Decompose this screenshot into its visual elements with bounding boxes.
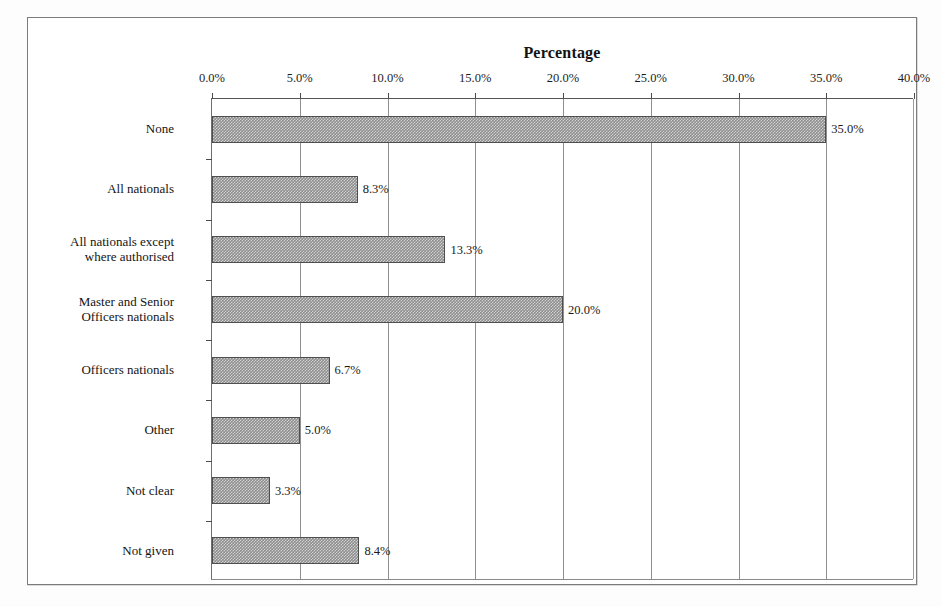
category-label-master-and-senior: Master and Senior Officers nationals <box>28 294 174 324</box>
bar-all-nationals-except-where-authorised[interactable] <box>212 236 445 263</box>
x-axis-tick <box>212 93 213 99</box>
bar-value-label: 6.7% <box>335 363 361 378</box>
x-axis-tick <box>300 93 301 99</box>
gridline-20-0% <box>563 99 564 579</box>
x-axis-tick-label: 10.0% <box>371 71 403 86</box>
bar-master-and-senior-officers-nationals[interactable] <box>212 296 563 323</box>
y-axis-tick <box>206 521 212 522</box>
gridline-30-0% <box>739 99 740 579</box>
bar-not-given[interactable] <box>212 537 359 564</box>
bar-none[interactable] <box>212 116 826 143</box>
gridline-15-0% <box>475 99 476 579</box>
bar-all-nationals[interactable] <box>212 176 358 203</box>
x-axis-tick <box>475 93 476 99</box>
bar-value-label: 8.4% <box>364 543 390 558</box>
gridline-10-0% <box>388 99 389 579</box>
y-axis-tick <box>206 340 212 341</box>
y-axis-tick <box>206 400 212 401</box>
x-axis-tick-label: 5.0% <box>287 71 313 86</box>
x-axis-tick <box>826 93 827 99</box>
x-axis-tick <box>563 93 564 99</box>
x-axis-tick-label: 15.0% <box>459 71 491 86</box>
category-label-all-nationals-except: All nationals except where authorised <box>28 234 174 264</box>
category-label-all-nationals: All nationals <box>28 181 174 196</box>
bar-value-label: 13.3% <box>450 242 482 257</box>
x-axis-tick <box>739 93 740 99</box>
chart-title: Percentage <box>211 44 913 62</box>
y-axis-tick <box>206 461 212 462</box>
category-label-not-given: Not given <box>28 542 174 557</box>
y-axis-tick <box>206 280 212 281</box>
x-axis-tick-label: 25.0% <box>635 71 667 86</box>
bar-value-label: 5.0% <box>305 423 331 438</box>
x-axis-tick-label: 20.0% <box>547 71 579 86</box>
x-axis-tick-label: 35.0% <box>810 71 842 86</box>
plot-area: 0.0%5.0%10.0%15.0%20.0%25.0%30.0%35.0%40… <box>211 98 913 580</box>
category-label-other: Other <box>28 422 174 437</box>
chart-frame: Percentage 0.0%5.0%10.0%15.0%20.0%25.0%3… <box>27 17 917 585</box>
plot-inner: 0.0%5.0%10.0%15.0%20.0%25.0%30.0%35.0%40… <box>212 99 913 579</box>
y-axis-tick <box>206 159 212 160</box>
gridline-40-0% <box>913 99 914 579</box>
chart-screenshot: Percentage 0.0%5.0%10.0%15.0%20.0%25.0%3… <box>0 0 942 607</box>
x-axis-tick-label: 0.0% <box>199 71 225 86</box>
x-axis-tick-label: 30.0% <box>722 71 754 86</box>
gridline-5-0% <box>300 99 301 579</box>
gridline-25-0% <box>651 99 652 579</box>
y-axis-tick <box>206 220 212 221</box>
x-axis-tick <box>388 93 389 99</box>
gridline-35-0% <box>826 99 827 579</box>
x-axis-tick-label: 40.0% <box>898 71 930 86</box>
bar-not-clear[interactable] <box>212 477 270 504</box>
category-label-not-clear: Not clear <box>28 482 174 497</box>
bar-officers-nationals[interactable] <box>212 357 330 384</box>
bar-value-label: 35.0% <box>831 122 863 137</box>
x-axis-tick <box>651 93 652 99</box>
bar-value-label: 8.3% <box>363 182 389 197</box>
category-label-none: None <box>28 121 174 136</box>
x-axis-tick <box>914 93 915 99</box>
bar-value-label: 20.0% <box>568 302 600 317</box>
bar-other[interactable] <box>212 417 300 444</box>
category-label-officers-nationals: Officers nationals <box>28 362 174 377</box>
bar-value-label: 3.3% <box>275 483 301 498</box>
